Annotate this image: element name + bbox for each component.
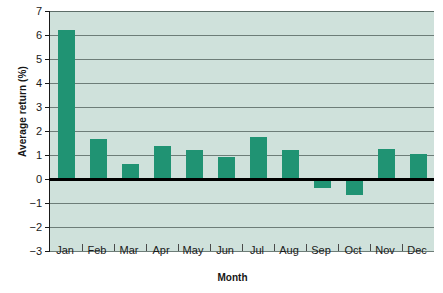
gridline [50,203,434,204]
x-axis-tick [306,244,307,251]
gridline [50,107,434,108]
y-axis-tick [45,251,50,252]
x-axis-label-feb: Feb [88,244,107,256]
x-axis-label-dec: Dec [407,244,427,256]
gridline [50,131,434,132]
x-axis-tick [370,244,371,251]
x-axis-label-apr: Apr [152,244,169,256]
bar-apr [154,146,171,179]
y-axis-tick-label: −1 [29,197,42,209]
chart-figure: Average return (%) Month 76543210−1−2−3 … [0,0,443,293]
y-axis-tick [45,203,50,204]
bar-feb [90,139,107,179]
gridline [50,11,434,12]
zero-line [49,178,435,181]
bar-jul [250,137,267,179]
bar-dec [410,154,427,179]
y-axis-tick [45,35,50,36]
bar-aug [282,150,299,179]
x-axis-label-sep: Sep [311,244,331,256]
x-axis-tick [242,244,243,251]
x-axis-tick [210,244,211,251]
y-axis-tick-label: −2 [29,221,42,233]
plot-inner [50,11,434,251]
x-axis-tick [146,244,147,251]
y-axis-tick [45,107,50,108]
gridline [50,83,434,84]
gridline [50,155,434,156]
gridline [50,35,434,36]
bar-nov [378,149,395,179]
bar-may [186,150,203,179]
x-axis-title: Month [30,272,435,283]
y-axis-tick-label: 0 [36,173,42,185]
y-axis-tick [45,155,50,156]
x-axis-tick [338,244,339,251]
y-axis-tick [45,83,50,84]
y-axis-tick [45,227,50,228]
x-axis-label-aug: Aug [279,244,299,256]
y-axis-tick-label: 1 [36,149,42,161]
x-axis-tick [82,244,83,251]
bar-jun [218,157,235,179]
bar-oct [346,179,363,195]
y-axis-tick [45,131,50,132]
gridline [50,59,434,60]
x-axis-label-jun: Jun [216,244,234,256]
y-axis-tick-label: 5 [36,53,42,65]
gridline [50,227,434,228]
x-axis-tick [178,244,179,251]
x-axis-tick [402,244,403,251]
x-axis-tick [114,244,115,251]
y-axis-tick [45,11,50,12]
x-axis-label-jul: Jul [250,244,264,256]
y-axis-tick-label: −3 [29,245,42,257]
x-axis-label-mar: Mar [120,244,139,256]
plot-area: 76543210−1−2−3 [49,11,434,251]
y-axis-tick [45,59,50,60]
x-axis-label-oct: Oct [344,244,361,256]
bar-mar [122,164,139,179]
x-axis-label-nov: Nov [375,244,395,256]
x-axis-tick [274,244,275,251]
x-axis-label-may: May [183,244,204,256]
bar-jan [58,30,75,179]
y-axis-tick-label: 3 [36,101,42,113]
y-axis-title: Average return (%) [17,32,28,192]
x-axis-label-jan: Jan [56,244,74,256]
y-axis-tick-label: 7 [36,5,42,17]
y-axis-tick-label: 4 [36,77,42,89]
y-axis-tick-label: 2 [36,125,42,137]
y-axis-tick-label: 6 [36,29,42,41]
